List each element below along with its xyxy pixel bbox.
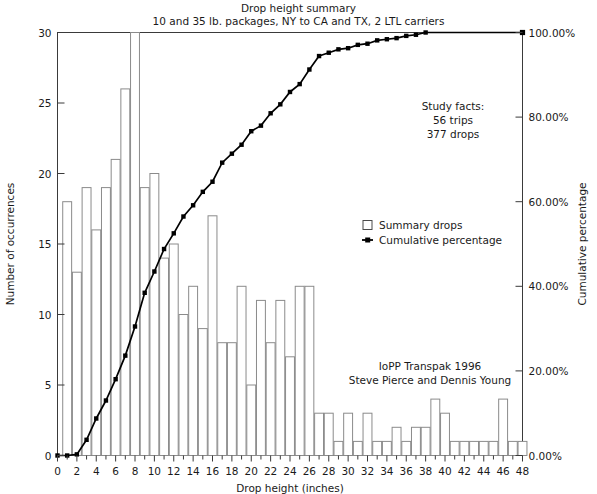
y-tick-label: 0 xyxy=(45,450,52,462)
bar xyxy=(421,427,430,455)
x-tick-label: 34 xyxy=(380,465,394,477)
cumulative-point xyxy=(172,231,176,235)
x-axis-title: Drop height (inches) xyxy=(236,482,344,494)
attribution-line: Steve Pierce and Dennis Young xyxy=(349,374,511,386)
y-tick-label: 30 xyxy=(38,27,51,39)
x-tick-label: 42 xyxy=(458,465,471,477)
y-tick-label: 25 xyxy=(38,97,51,109)
x-tick-label: 38 xyxy=(419,465,432,477)
cumulative-point xyxy=(297,82,301,86)
legend-line-marker xyxy=(365,238,370,243)
cumulative-point xyxy=(336,47,340,51)
bar xyxy=(72,272,81,455)
chart-figure: Drop height summary 10 and 35 lb. packag… xyxy=(0,0,597,494)
cumulative-point xyxy=(152,269,156,273)
y-axis-title: Number of occurrences xyxy=(4,183,16,306)
cumulative-point xyxy=(181,214,185,218)
x-tick-label: 16 xyxy=(206,465,220,477)
bar xyxy=(276,300,285,455)
x-tick-label: 28 xyxy=(322,465,335,477)
study-facts-line: 56 trips xyxy=(433,114,473,126)
y-tick-label: 5 xyxy=(45,379,52,391)
bar xyxy=(479,441,488,455)
bar xyxy=(140,188,149,456)
x-tick-label: 0 xyxy=(54,465,61,477)
x-tick-label: 14 xyxy=(186,465,200,477)
cumulative-point xyxy=(259,123,263,127)
y-tick-label: 20 xyxy=(38,168,51,180)
cumulative-point xyxy=(94,416,98,420)
cumulative-point xyxy=(123,353,127,357)
cumulative-point xyxy=(268,111,272,115)
x-tick-label: 4 xyxy=(93,465,100,477)
bar xyxy=(334,441,343,455)
cumulative-point xyxy=(210,180,214,184)
bar xyxy=(160,258,169,455)
y2-tick-label: 40.00% xyxy=(529,280,569,292)
x-tick-label: 26 xyxy=(303,465,317,477)
x-tick-label: 30 xyxy=(341,465,354,477)
x-tick-label: 6 xyxy=(112,465,119,477)
y2-tick-label: 0.00% xyxy=(529,450,562,462)
bar xyxy=(315,413,324,455)
x-tick-label: 44 xyxy=(477,465,491,477)
bar xyxy=(373,441,382,455)
x-tick-label: 40 xyxy=(438,465,451,477)
cumulative-point xyxy=(201,190,205,194)
bar xyxy=(402,441,411,455)
x-tick-label: 2 xyxy=(74,465,81,477)
x-tick-label: 8 xyxy=(132,465,139,477)
bar xyxy=(237,286,246,455)
bar xyxy=(111,159,120,455)
study-facts-line: Study facts: xyxy=(422,100,485,112)
bar xyxy=(169,244,178,456)
bar xyxy=(295,286,304,455)
bar xyxy=(218,343,227,456)
legend-swatch-bar xyxy=(363,221,372,230)
bar xyxy=(489,441,498,455)
bar xyxy=(508,441,517,455)
cumulative-point xyxy=(346,46,350,50)
bar xyxy=(286,357,295,456)
cumulative-point xyxy=(307,67,311,71)
legend-label-line: Cumulative percentage xyxy=(379,234,502,246)
cumulative-point xyxy=(104,398,108,402)
cumulative-point xyxy=(365,42,369,46)
cumulative-point xyxy=(220,160,224,164)
bar xyxy=(363,413,372,455)
cumulative-point xyxy=(133,324,137,328)
legend-label-bar: Summary drops xyxy=(379,219,462,231)
study-facts-line: 377 drops xyxy=(427,128,480,140)
cumulative-point xyxy=(239,143,243,147)
cumulative-point xyxy=(414,33,418,37)
cumulative-point xyxy=(394,36,398,40)
y2-tick-label: 20.00% xyxy=(529,365,569,377)
x-tick-label: 46 xyxy=(496,465,510,477)
bar xyxy=(63,202,72,456)
bar xyxy=(441,413,450,455)
x-tick-label: 12 xyxy=(167,465,180,477)
cumulative-point xyxy=(356,43,360,47)
bar xyxy=(179,315,188,456)
bar xyxy=(189,286,198,455)
bar xyxy=(101,188,110,456)
bar xyxy=(431,399,440,455)
x-tick-label: 22 xyxy=(264,465,277,477)
bar xyxy=(131,33,140,456)
bar xyxy=(256,300,265,455)
x-tick-label: 10 xyxy=(148,465,161,477)
bar xyxy=(82,188,91,456)
x-tick-label: 32 xyxy=(361,465,374,477)
y2-tick-label: 100.00% xyxy=(529,27,576,39)
bar xyxy=(198,329,207,456)
y2-tick-label: 80.00% xyxy=(529,111,569,123)
bar xyxy=(266,343,275,456)
bar xyxy=(499,399,508,455)
cumulative-point xyxy=(423,30,427,34)
y-tick-label: 15 xyxy=(38,238,51,250)
cumulative-point xyxy=(278,102,282,106)
x-tick-label: 20 xyxy=(245,465,258,477)
bar xyxy=(382,441,391,455)
y-tick-label: 10 xyxy=(38,309,51,321)
plot-canvas: 0246810121416182022242628303234363840424… xyxy=(0,0,597,494)
